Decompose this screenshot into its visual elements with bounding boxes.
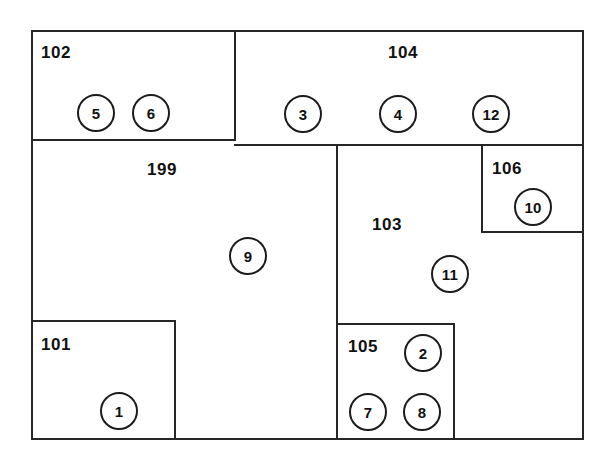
divider-102-104 [234, 30, 236, 141]
divider-106-bottom [481, 231, 584, 233]
node-label-4: 4 [394, 107, 403, 122]
node-label-10: 10 [524, 200, 541, 215]
node-circle-4: 4 [379, 95, 417, 133]
region-label-106: 106 [492, 160, 522, 177]
node-circle-1: 1 [100, 392, 138, 430]
node-circle-12: 12 [472, 95, 510, 133]
node-label-9: 9 [244, 249, 253, 264]
region-label-199: 199 [147, 161, 177, 178]
node-circle-8: 8 [403, 393, 441, 431]
node-label-2: 2 [419, 346, 428, 361]
region-label-105: 105 [348, 338, 378, 355]
divider-105-right [453, 323, 455, 440]
node-circle-5: 5 [77, 94, 115, 132]
node-label-6: 6 [147, 106, 156, 121]
divider-102-199 [31, 139, 234, 141]
node-label-12: 12 [482, 107, 499, 122]
divider-106-left [481, 146, 483, 233]
divider-105-top [336, 323, 455, 325]
node-circle-6: 6 [132, 94, 170, 132]
divider-104-103 [234, 144, 584, 146]
node-label-7: 7 [364, 405, 373, 420]
node-label-8: 8 [418, 405, 427, 420]
node-circle-11: 11 [431, 255, 469, 293]
node-circle-7: 7 [349, 393, 387, 431]
region-label-104: 104 [388, 44, 418, 61]
node-circle-2: 2 [404, 334, 442, 372]
node-circle-10: 10 [514, 188, 552, 226]
block-partition-diagram: 102 104 199 103 106 101 105 5 6 3 4 12 1… [0, 0, 610, 461]
node-label-1: 1 [115, 404, 124, 419]
outer-boundary [31, 30, 584, 440]
region-label-102: 102 [41, 44, 71, 61]
region-label-103: 103 [372, 216, 402, 233]
node-label-3: 3 [299, 107, 308, 122]
divider-101-top [31, 320, 176, 322]
node-label-11: 11 [442, 267, 458, 282]
node-circle-9: 9 [229, 237, 267, 275]
divider-199-103 [336, 146, 338, 440]
divider-101-right [174, 320, 176, 440]
node-label-5: 5 [92, 106, 101, 121]
node-circle-3: 3 [284, 95, 322, 133]
region-label-101: 101 [41, 336, 71, 353]
